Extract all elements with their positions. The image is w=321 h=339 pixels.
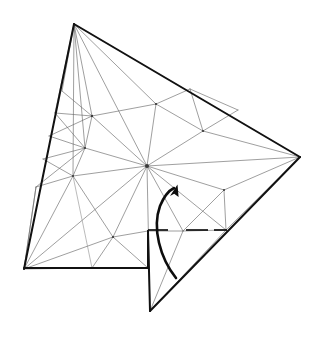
canvas-background xyxy=(0,0,321,339)
mesh-diagram-canvas xyxy=(0,0,321,339)
figure-root xyxy=(0,0,321,339)
mesh-node xyxy=(202,130,204,132)
mesh-node xyxy=(112,236,114,238)
central-hub-node xyxy=(145,164,149,168)
mesh-node xyxy=(91,115,93,117)
mesh-node xyxy=(155,103,157,105)
mesh-node xyxy=(223,189,225,191)
mesh-node xyxy=(72,175,74,177)
mesh-node xyxy=(84,147,86,149)
